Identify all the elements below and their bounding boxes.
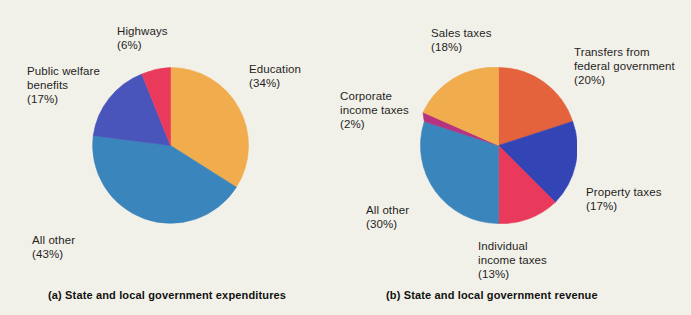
label-property-taxes: Property taxes (17%) <box>586 185 662 213</box>
caption-panel-b: (b) State and local government revenue <box>386 289 598 301</box>
pie-chart-revenue <box>420 67 577 224</box>
label-all-other-expenditures: All other (43%) <box>32 233 75 261</box>
pie-chart-expenditures <box>92 67 249 224</box>
pie-svg-expenditures <box>92 67 249 224</box>
panel-state-local-expenditures: Highways (6%) Education (34%) Public wel… <box>0 0 345 315</box>
label-individual-income-taxes: Individual income taxes (13%) <box>478 239 547 281</box>
label-all-other-revenue: All other (30%) <box>366 203 409 231</box>
label-education: Education (34%) <box>249 62 301 90</box>
label-sales-taxes: Sales taxes (18%) <box>431 26 492 54</box>
label-transfers-federal-government: Transfers from federal government (20%) <box>574 45 675 87</box>
label-public-welfare-benefits: Public welfare benefits (17%) <box>27 64 100 106</box>
pie-svg-revenue <box>420 67 577 224</box>
label-corporate-income-taxes: Corporate income taxes (2%) <box>340 89 409 131</box>
caption-panel-a: (a) State and local government expenditu… <box>48 289 286 301</box>
figure-two-pie-charts: Highways (6%) Education (34%) Public wel… <box>0 0 691 315</box>
label-highways: Highways (6%) <box>117 24 168 52</box>
